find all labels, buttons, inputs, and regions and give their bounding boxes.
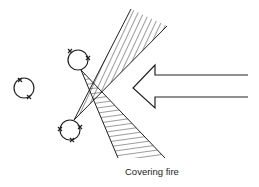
lower-fire-sector [81, 70, 165, 158]
upper-fire-sector [74, 9, 167, 120]
upper-unit-icon [68, 49, 90, 70]
covering-fire-diagram [0, 0, 259, 187]
enemy-advance-arrow [133, 65, 248, 108]
isolated-unit-icon [14, 78, 34, 99]
lower-unit-icon [58, 120, 82, 142]
covering-fire-label: Covering fire [125, 166, 179, 177]
